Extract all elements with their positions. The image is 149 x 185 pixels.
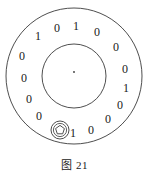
code-digit: 1 [31, 30, 45, 44]
inner-circle [42, 44, 106, 108]
code-digit: 0 [118, 63, 132, 77]
code-digit: 0 [84, 124, 98, 138]
figure-caption: 图 21 [0, 158, 149, 172]
code-digit: 0 [90, 26, 104, 40]
code-digit: 0 [15, 50, 29, 64]
code-digit: 0 [109, 41, 123, 55]
code-digit: 0 [50, 22, 64, 36]
code-digit: 0 [17, 72, 31, 86]
code-digit: 1 [119, 82, 133, 96]
code-digit: 0 [32, 110, 46, 124]
code-digit: 0 [22, 93, 36, 107]
code-digit: 0 [113, 99, 127, 113]
code-digit: 1 [66, 127, 80, 141]
figure-container: 0 1 0 1 0 0 0 1 0 0 0 1 0 0 0 图 21 [0, 0, 149, 185]
code-digit: 0 [101, 113, 115, 127]
code-digit: 1 [69, 20, 83, 34]
index-marker-pentagon-icon [56, 125, 65, 133]
center-dot [73, 71, 75, 73]
encoder-disc: 0 1 0 1 0 0 0 1 0 0 0 1 0 0 0 [0, 0, 149, 150]
